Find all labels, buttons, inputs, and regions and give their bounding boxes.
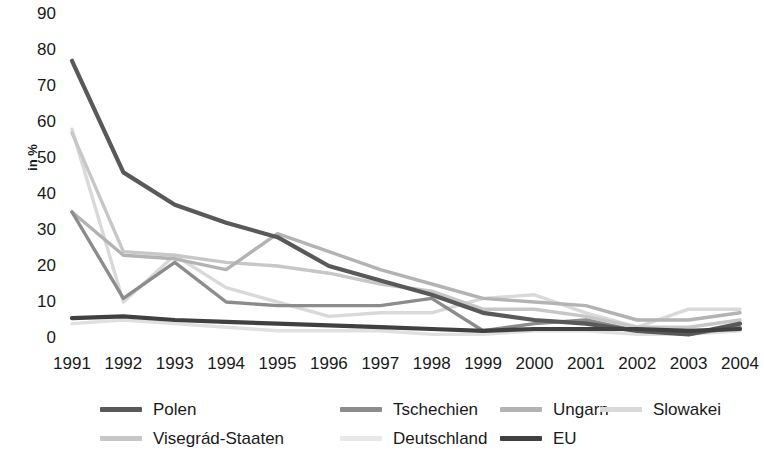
x-axis-tick-label: 1992 [99, 355, 147, 372]
legend-item-polen[interactable]: Polen [100, 396, 196, 422]
x-axis-tick-label: 1994 [202, 355, 250, 372]
legend-swatch-icon [600, 407, 642, 412]
legend-label: Deutschland [393, 429, 488, 448]
x-axis-tick-label: 2003 [665, 355, 713, 372]
x-axis-tick-label: 2001 [562, 355, 610, 372]
legend-label: Slowakei [653, 400, 721, 419]
legend-item-visegr-d-staaten[interactable]: Visegrád-Staaten [100, 425, 284, 451]
legend-row-bottom: Visegrád-StaatenDeutschlandEU [0, 425, 748, 453]
legend-item-ungarn[interactable]: Ungarn [500, 396, 609, 422]
x-axis-tick-label: 2000 [510, 355, 558, 372]
x-axis-tick-label: 1995 [254, 355, 302, 372]
legend-swatch-icon [340, 407, 382, 412]
x-axis-tick-label: 1997 [356, 355, 404, 372]
series-line-tschechien [72, 212, 740, 334]
legend-item-deutschland[interactable]: Deutschland [340, 425, 488, 451]
x-axis-tick-label: 1993 [151, 355, 199, 372]
legend-item-tschechien[interactable]: Tschechien [340, 396, 478, 422]
legend-swatch-icon [100, 407, 142, 412]
legend-label: Polen [153, 400, 196, 419]
x-axis-tick-label: 1996 [305, 355, 353, 372]
chart-legend: PolenTschechienUngarnSlowakei Visegrád-S… [0, 392, 748, 457]
x-axis-tick-label: 2004 [716, 355, 764, 372]
legend-label: Tschechien [393, 400, 478, 419]
legend-row-top: PolenTschechienUngarnSlowakei [0, 396, 748, 424]
x-axis-tick-label: 1999 [459, 355, 507, 372]
series-line-slowakei [72, 129, 740, 327]
legend-item-slowakei[interactable]: Slowakei [600, 396, 721, 422]
legend-item-eu[interactable]: EU [500, 425, 577, 451]
legend-label: EU [553, 429, 577, 448]
legend-label: Visegrád-Staaten [153, 429, 284, 448]
x-axis-tick-label: 2002 [613, 355, 661, 372]
series-line-visegr-d-staaten [72, 133, 740, 327]
legend-swatch-icon [100, 436, 142, 441]
x-axis-tick-label: 1998 [408, 355, 456, 372]
series-line-polen [72, 61, 740, 335]
legend-swatch-icon [500, 436, 542, 441]
legend-swatch-icon [340, 436, 382, 441]
legend-swatch-icon [500, 407, 542, 412]
x-axis-tick-label: 1991 [48, 355, 96, 372]
